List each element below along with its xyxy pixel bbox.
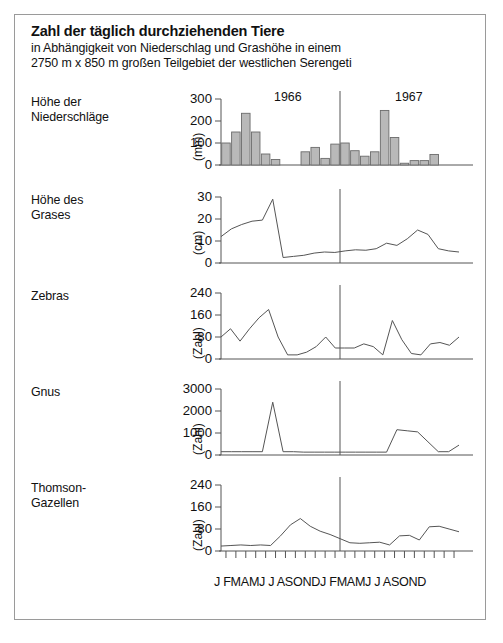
bar-niederschlag (420, 161, 429, 165)
bar-niederschlag (410, 161, 419, 165)
ytick-label: 20 (197, 211, 212, 226)
ytick-label: 160 (190, 499, 212, 514)
bar-niederschlag (400, 163, 409, 165)
bar-niederschlag (341, 143, 350, 165)
bar-niederschlag (261, 154, 270, 165)
ytick-label: 2000 (183, 403, 212, 418)
chart-grashoehe: 0102030 (15, 187, 487, 283)
ytick-label: 80 (197, 329, 212, 344)
bar-niederschlag (271, 160, 280, 166)
panel-grashoehe: Höhe des Grases (cm) 0102030 (15, 187, 487, 283)
panel-zebras: Zebras (Zahl) 080160240 (15, 283, 487, 379)
figure-frame: Zahl der täglich durchziehenden Tiere in… (14, 14, 486, 620)
bar-niederschlag (351, 151, 360, 165)
bar-niederschlag (251, 132, 260, 165)
ytick-label: 0 (205, 255, 212, 270)
ytick-label: 30 (197, 189, 212, 204)
ytick-label: 0 (205, 543, 212, 558)
ytick-label: 0 (205, 157, 212, 172)
panel-gnus: Gnus (Zahl) 0100020003000 (15, 379, 487, 475)
chart-zebras: 080160240 (15, 283, 487, 379)
ytick-label: 0 (205, 351, 212, 366)
bar-niederschlag (232, 132, 241, 165)
ytick-label: 1000 (183, 425, 212, 440)
bar-niederschlag (242, 113, 251, 165)
subtitle-line-2: 2750 m x 850 m großen Teilgebiet der wes… (31, 56, 471, 71)
ytick-label: 0 (205, 447, 212, 462)
ytick-label: 160 (190, 307, 212, 322)
panel-niederschlag: Höhe der Niederschläge (mm) 1966 1967 01… (15, 89, 487, 185)
bar-niederschlag (222, 143, 231, 165)
bar-niederschlag (390, 138, 399, 166)
figure-header: Zahl der täglich durchziehenden Tiere in… (31, 23, 471, 71)
panel-thomson-gazellen: Thomson- Gazellen (Zahl) 080160240 J FMA… (15, 475, 487, 605)
bar-niederschlag (321, 158, 330, 165)
ytick-label: 200 (190, 113, 212, 128)
bar-niederschlag (311, 147, 320, 165)
ytick-label: 10 (197, 233, 212, 248)
figure-page: Zahl der täglich durchziehenden Tiere in… (0, 0, 503, 643)
ytick-label: 300 (190, 91, 212, 106)
subtitle-line-1: in Abhängigkeit von Niederschlag und Gra… (31, 41, 471, 56)
ytick-label: 240 (190, 285, 212, 300)
bar-niederschlag (380, 110, 389, 165)
bar-niederschlag (331, 144, 340, 165)
ytick-label: 3000 (183, 381, 212, 396)
chart-niederschlag: 0100200300 (15, 89, 487, 185)
chart-gnus: 0100020003000 (15, 379, 487, 475)
bar-niederschlag (361, 156, 370, 165)
ytick-label: 80 (197, 521, 212, 536)
bar-niederschlag (370, 152, 379, 165)
page-title: Zahl der täglich durchziehenden Tiere (31, 23, 471, 40)
ytick-label: 100 (190, 135, 212, 150)
bar-niederschlag (430, 154, 439, 165)
bar-niederschlag (301, 152, 310, 165)
ytick-label: 240 (190, 477, 212, 492)
xaxis-month-labels: J FMAMJ J ASONDJ FMAMJ J ASOND (214, 575, 426, 589)
